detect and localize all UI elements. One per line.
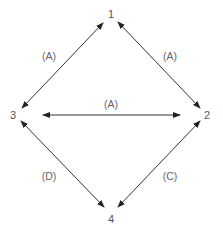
- edge-1-2: [118, 22, 200, 108]
- edge-label-1-2: (A): [163, 50, 177, 62]
- nodes: 1 2 3 4: [10, 8, 210, 225]
- node-3-label: 3: [10, 109, 16, 121]
- edge-label-3-2: (A): [104, 98, 118, 110]
- edge-3-4: [21, 121, 104, 207]
- edge-2-4: [118, 121, 200, 207]
- edge-label-2-4: (C): [163, 170, 178, 182]
- edge-label-3-1: (A): [42, 50, 56, 62]
- node-2-label: 2: [204, 109, 210, 121]
- edge-3-1: [22, 23, 103, 108]
- edge-label-3-4: (D): [42, 170, 57, 182]
- edge-labels: (A) (A) (A) (D) (C): [42, 50, 178, 182]
- node-1-label: 1: [108, 8, 114, 20]
- graph-diagram: (A) (A) (A) (D) (C) 1 2 3 4: [0, 0, 223, 232]
- node-4-label: 4: [108, 213, 114, 225]
